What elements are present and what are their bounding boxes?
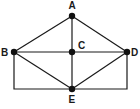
node-c [69, 49, 75, 55]
edge-d-e-diagonal [72, 52, 127, 89]
graph-diagram: A B C D E [0, 0, 140, 109]
edge-b-e-diagonal [14, 52, 72, 89]
edge-a-b [14, 16, 72, 52]
node-a [69, 13, 75, 19]
node-b [11, 49, 17, 55]
node-label-b: B [1, 47, 8, 58]
node-label-c: C [78, 40, 85, 51]
node-d [124, 49, 130, 55]
node-label-a: A [69, 0, 76, 11]
node-label-d: D [131, 47, 138, 58]
node-e [69, 86, 75, 92]
node-label-e: E [69, 94, 76, 105]
